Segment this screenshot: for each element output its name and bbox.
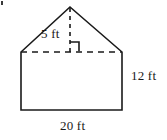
- house-outline-polygon: [21, 7, 122, 110]
- roof-height-label: 5 ft: [41, 27, 60, 40]
- geometry-figure-panel: 5 ft 12 ft 20 ft: [0, 0, 167, 140]
- side-height-label: 12 ft: [131, 69, 156, 82]
- corner-artifact-mark: [1, 1, 3, 5]
- base-width-label: 20 ft: [60, 119, 85, 132]
